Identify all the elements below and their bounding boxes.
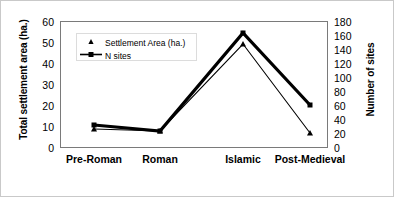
square-line-marker-icon [78,48,104,61]
chart-figure: Total settlement area (ha.) Number of si… [0,0,394,197]
triangle-marker-icon [80,35,102,48]
square-marker [241,31,246,36]
triangle-marker [240,41,246,47]
square-marker [308,103,313,108]
legend-entry-n-sites: N sites [77,48,198,61]
legend: Settlement Area (ha.) N sites [76,33,197,61]
legend-label-n-sites: N sites [105,51,131,61]
category-label-post-medieval: Post-Medieval [262,153,358,165]
series-lines [0,0,394,197]
category-label-pre-roman: Pre-Roman [54,153,134,165]
legend-entry-settlement-area: Settlement Area (ha.) [77,35,198,48]
category-label-roman: Roman [125,153,195,165]
legend-label-settlement-area: Settlement Area (ha.) [105,38,185,48]
